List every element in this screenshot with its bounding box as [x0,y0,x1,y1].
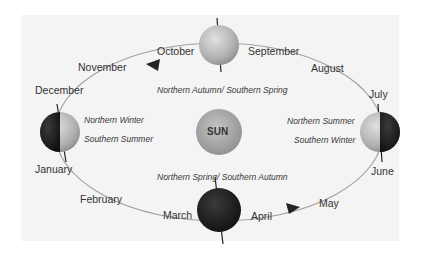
season-right-1: Northern Summer [287,116,355,126]
month-october: October [157,45,194,57]
season-left-1: Northern Winter [84,115,144,125]
month-august: August [311,62,344,74]
earth-top [199,18,239,72]
earth-bottom [197,177,241,244]
month-december: December [35,84,83,96]
month-september: September [248,45,299,57]
season-top: Northern Autumn/ Southern Spring [157,85,288,95]
month-january: January [35,163,72,175]
month-april: April [251,210,272,222]
month-february: February [80,193,122,205]
month-may: May [319,197,339,209]
month-november: November [78,61,126,73]
season-left-2: Southern Summer [84,134,153,144]
month-july: July [369,88,388,100]
sun-label: SUN [207,126,228,137]
season-right-2: Southern Winter [294,135,355,145]
earth-right [360,104,400,162]
arrow-icon [146,59,160,71]
month-march: March [163,209,192,221]
season-bottom: Northern Spring/ Southern Autumn [157,172,288,182]
month-june: June [371,165,394,177]
